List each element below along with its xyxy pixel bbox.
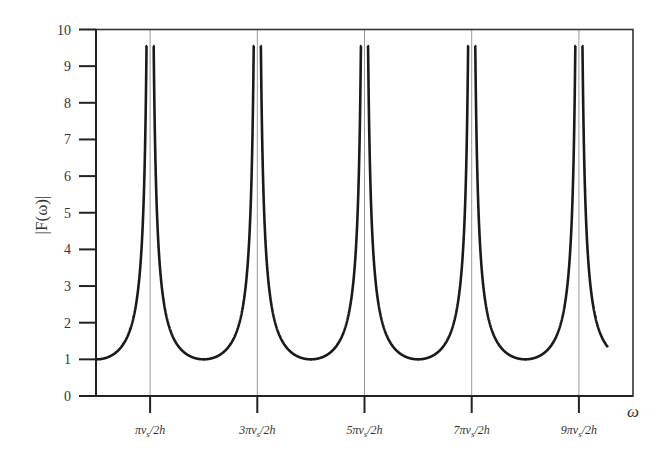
x-tick-label: 9πvs/2h [561, 423, 597, 439]
amplification-curve [97, 46, 608, 359]
amplification-chart: 012345678910 πvs/2h3πvs/2h5πvs/2h7πvs/2h… [0, 0, 670, 459]
y-tick-label: 7 [64, 132, 71, 147]
x-tick-label: 5πvs/2h [346, 423, 382, 439]
x-tick-label: πvs/2h [135, 423, 165, 439]
y-axis-ticks: 012345678910 [57, 23, 96, 405]
y-tick-label: 8 [64, 96, 71, 111]
y-tick-label: 1 [64, 352, 71, 367]
x-axis-title: ω [627, 402, 639, 421]
resonance-gridlines [150, 30, 579, 397]
x-tick-label: 7πvs/2h [454, 423, 490, 439]
y-tick-label: 2 [64, 316, 71, 331]
y-tick-label: 5 [64, 206, 71, 221]
y-tick-label: 10 [57, 23, 71, 38]
y-axis-title: |F(ω)| [32, 196, 51, 235]
y-tick-label: 0 [64, 389, 71, 404]
y-tick-label: 3 [64, 279, 71, 294]
x-axis-ticks: πvs/2h3πvs/2h5πvs/2h7πvs/2h9πvs/2h [135, 396, 597, 439]
y-tick-label: 6 [64, 169, 71, 184]
x-tick-label: 3πvs/2h [238, 423, 275, 439]
y-tick-label: 4 [64, 242, 71, 257]
y-tick-label: 9 [64, 59, 71, 74]
